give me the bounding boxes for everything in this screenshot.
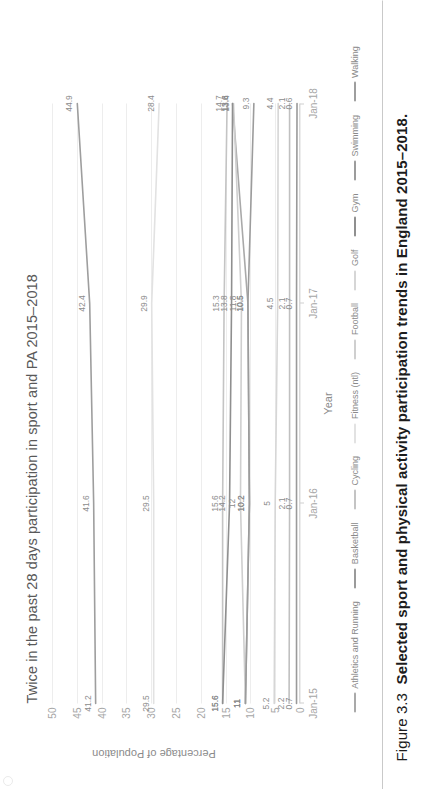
- figure-caption-band: Figure 3.3 Selected sport and physical a…: [382, 0, 438, 789]
- y-tick-label: 45: [71, 707, 82, 741]
- series-line: [245, 103, 253, 703]
- data-point-label: 2.2: [277, 697, 286, 709]
- x-axis-title: Year: [322, 103, 334, 703]
- legend-label: Athletics and Running: [350, 601, 360, 689]
- x-tick-label: Jan-18: [308, 88, 319, 119]
- y-tick-label: 0: [295, 707, 306, 741]
- data-point-label: 41.6: [81, 495, 90, 512]
- legend-swatch-icon: [354, 270, 357, 290]
- legend-label: Walking: [350, 46, 360, 78]
- legend-label: Gym: [350, 193, 360, 212]
- chart-legend: Athletics and RunningBasketballCyclingFi…: [344, 29, 366, 729]
- legend-swatch-icon: [354, 160, 357, 180]
- data-point-label: 10.5: [236, 295, 245, 312]
- figure-stage: Twice in the past 28 days participation …: [0, 0, 438, 789]
- y-tick-label: 35: [121, 707, 132, 741]
- data-point-label: 11: [233, 699, 242, 708]
- data-point-label: 2.1: [277, 297, 286, 309]
- data-point-label: 44.9: [65, 95, 74, 112]
- data-point-label: 5.2: [262, 697, 271, 709]
- data-point-label: 29.5: [141, 695, 150, 712]
- y-tick-label: 20: [195, 707, 206, 741]
- legend-item[interactable]: Golf: [350, 249, 360, 290]
- y-axis-title-wrap: Percentage of Population: [52, 753, 300, 771]
- legend-item[interactable]: Walking: [350, 46, 360, 102]
- legend-swatch-icon: [354, 489, 357, 509]
- legend-label: Cycling: [350, 456, 360, 486]
- legend-label: Swimming: [350, 115, 360, 157]
- data-point-label: 15.6: [210, 695, 219, 712]
- legend-label: Football: [350, 303, 360, 335]
- legend-item[interactable]: Swimming: [350, 115, 360, 181]
- data-point-label: 2.1: [277, 97, 286, 109]
- data-point-label: 14.2: [217, 495, 226, 512]
- data-point-label: 2.1: [277, 497, 286, 509]
- y-tick-label: 15: [220, 707, 231, 741]
- data-point-label: 4.5: [265, 297, 274, 309]
- legend-swatch-icon: [354, 568, 357, 588]
- figure-caption-title: Selected sport and physical activity par…: [393, 113, 410, 684]
- y-tick-label: 30: [146, 707, 157, 741]
- y-axis-title: Percentage of Population: [74, 747, 234, 759]
- legend-swatch-icon: [354, 216, 357, 236]
- legend-label: Fitness (ntl): [350, 372, 360, 419]
- legend-label: Basketball: [350, 522, 360, 564]
- y-tick-label: 50: [47, 707, 58, 741]
- figure-caption: Figure 3.3 Selected sport and physical a…: [393, 14, 410, 761]
- data-point-label: 41.2: [83, 695, 92, 712]
- legend-item[interactable]: Basketball: [350, 522, 360, 588]
- data-point-label: 9.3: [242, 97, 251, 109]
- x-axis-ticks: Jan-15Jan-16Jan-17Jan-18: [304, 103, 320, 703]
- series-line: [77, 103, 95, 703]
- legend-swatch-icon: [354, 692, 357, 712]
- chart-container: Twice in the past 28 days participation …: [0, 0, 380, 789]
- data-point-label: 42.4: [77, 295, 86, 312]
- data-point-label: 29.9: [139, 295, 148, 312]
- legend-item[interactable]: Football: [350, 303, 360, 359]
- data-point-label: 5: [263, 501, 272, 506]
- legend-item[interactable]: Athletics and Running: [350, 601, 360, 713]
- legend-swatch-icon: [354, 339, 357, 359]
- series-layer: [52, 103, 300, 703]
- figure-number: Figure 3.3: [393, 692, 410, 761]
- figure-page: Twice in the past 28 days participation …: [0, 0, 438, 789]
- legend-swatch-icon: [354, 423, 357, 443]
- data-point-label: 13.6: [220, 95, 229, 112]
- y-axis-ticks: 05101520253035404550: [52, 707, 300, 745]
- series-line: [274, 103, 278, 703]
- y-tick-label: 40: [96, 707, 107, 741]
- chart-title: Twice in the past 28 days participation …: [24, 274, 40, 703]
- page-corner-mark: [3, 776, 13, 786]
- x-tick-label: Jan-17: [308, 288, 319, 319]
- y-tick-label: 25: [171, 707, 182, 741]
- legend-item[interactable]: Gym: [350, 193, 360, 236]
- data-point-label: 4.4: [266, 97, 275, 109]
- y-tick-label: 5: [270, 707, 281, 741]
- legend-label: Golf: [350, 249, 360, 266]
- series-line: [152, 103, 159, 703]
- x-tick-label: Jan-15: [308, 688, 319, 719]
- data-point-label: 10.2: [237, 495, 246, 512]
- legend-swatch-icon: [354, 82, 357, 102]
- data-point-label: 29.5: [141, 495, 150, 512]
- data-point-label: 28.4: [147, 95, 156, 112]
- data-point-label: 13.8: [219, 295, 228, 312]
- x-tick-label: Jan-16: [308, 488, 319, 519]
- legend-item[interactable]: Fitness (ntl): [350, 372, 360, 443]
- grid-line: [300, 103, 301, 703]
- plot-area: 1110.210.513.60.70.70.70.615.615.615.314…: [52, 103, 300, 703]
- legend-item[interactable]: Cycling: [350, 456, 360, 510]
- y-tick-label: 10: [245, 707, 256, 741]
